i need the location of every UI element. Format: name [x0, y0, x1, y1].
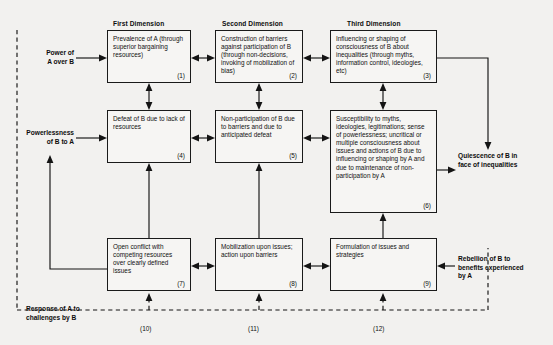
box-7[interactable]: Open conflict with competing resources o… — [107, 238, 191, 291]
box-4-text: Defeat of B due to lack of resources — [113, 115, 185, 130]
link-box1-box4-head-up — [146, 83, 153, 91]
feedback-number-11: (11) — [248, 325, 259, 332]
box-7-number: (7) — [177, 280, 185, 288]
box-3-number: (3) — [423, 72, 431, 80]
column-header-third: Third Dimension — [347, 20, 401, 27]
box-2-text: Construction of barriers against partici… — [221, 35, 294, 74]
feedback-riser-12-head — [380, 293, 387, 301]
label-rebellion-line2: benefits experienced — [458, 264, 524, 273]
label-quiescence: Quiescence of B in face of inequalities — [458, 152, 517, 169]
box-5-number: (5) — [289, 152, 297, 160]
box-9[interactable]: Formulation of issues and strategies (9) — [330, 238, 437, 291]
link-box5-box6-head-left — [303, 135, 311, 142]
box-8[interactable]: Mobilization upon issues; action upon ba… — [215, 238, 303, 291]
box-6-number: (6) — [423, 202, 431, 210]
label-power-of-a-line1: Power of — [14, 49, 74, 58]
box-1-text: Prevalence of A (through superior bargai… — [113, 35, 183, 58]
feedback-number-12: (12) — [373, 325, 384, 332]
label-power-of-a-line2: A over B — [14, 58, 74, 67]
box-2[interactable]: Construction of barriers against partici… — [215, 30, 303, 83]
link-box1-box2-head-right — [207, 55, 215, 62]
box-8-number: (8) — [289, 280, 297, 288]
link-box1-box4-head-down — [146, 102, 153, 110]
label-quiescence-line1: Quiescence of B in — [458, 152, 517, 161]
diagram-canvas: First Dimension Second Dimension Third D… — [0, 0, 553, 345]
link-box3-to-quiescence-path — [437, 58, 488, 142]
label-powerlessness-line1: Powerlessness — [4, 129, 74, 138]
link-box2-box5-head-up — [256, 83, 263, 91]
link-box1-box2-head-left — [191, 55, 199, 62]
box-1-number: (1) — [177, 72, 185, 80]
feedback-box7-to-powerlessness-path — [50, 163, 107, 269]
link-box3-to-quiescence-head — [485, 142, 492, 150]
box-5[interactable]: Non-participation of B due to barriers a… — [215, 110, 303, 163]
label-rebellion-line3: by A — [458, 272, 524, 281]
column-header-first: First Dimension — [113, 20, 164, 27]
link-box2-box3-head-right — [322, 55, 330, 62]
link-box3-box6-head-down — [380, 102, 387, 110]
box-3[interactable]: Influencing or shaping of consciousness … — [330, 30, 437, 83]
box-8-text: Mobilization upon issues; action upon ba… — [221, 243, 292, 258]
feedback-number-10: (10) — [140, 325, 151, 332]
link-box7-box8-head-left — [191, 263, 199, 270]
label-response-of-a: Response of A to challenges by B — [26, 305, 80, 322]
feedback-box7-to-powerlessness-head — [47, 155, 54, 163]
label-powerlessness-line2: of B to A — [4, 138, 74, 147]
link-box4-box7-head-up — [146, 163, 153, 171]
feedback-riser-10-head — [146, 293, 153, 301]
link-box3-box6-head-up — [380, 83, 387, 91]
column-header-second: Second Dimension — [222, 20, 283, 27]
link-box2-box3-head-left — [303, 55, 311, 62]
box-6-text: Susceptibility to myths, ideologies, leg… — [336, 115, 424, 179]
arrow-power-to-box1-head — [99, 55, 107, 62]
link-box6-box9-head-up — [380, 213, 387, 221]
label-powerlessness: Powerlessness of B to A — [4, 129, 74, 146]
link-box5-box6-head-right — [322, 135, 330, 142]
box-4[interactable]: Defeat of B due to lack of resources (4) — [107, 110, 191, 163]
link-box2-box5-head-down — [256, 102, 263, 110]
box-2-number: (2) — [289, 72, 297, 80]
link-rebellion-to-box9-head — [437, 263, 445, 270]
label-rebellion-line1: Rebellion of B to — [458, 255, 524, 264]
arrow-powerlessness-to-box4-head — [99, 135, 107, 142]
link-box6-to-quiescence-head — [448, 167, 456, 174]
link-box4-box5-head-left — [191, 135, 199, 142]
box-3-text: Influencing or shaping of consciousness … — [336, 35, 423, 74]
link-box5-box8-head-up — [256, 163, 263, 171]
label-response-of-a-line2: challenges by B — [26, 314, 80, 323]
link-box8-box9-head-right — [322, 263, 330, 270]
box-7-text: Open conflict with competing resources o… — [113, 243, 172, 274]
link-box7-box8-head-right — [207, 263, 215, 270]
label-rebellion: Rebellion of B to benefits experienced b… — [458, 255, 524, 281]
box-5-text: Non-participation of B due to barriers a… — [221, 115, 295, 138]
box-6[interactable]: Susceptibility to myths, ideologies, leg… — [330, 110, 437, 213]
box-4-number: (4) — [177, 152, 185, 160]
box-9-number: (9) — [423, 280, 431, 288]
link-box4-box5-head-right — [207, 135, 215, 142]
label-response-of-a-line1: Response of A to — [26, 305, 80, 314]
label-quiescence-line2: face of inequalities — [458, 161, 517, 170]
feedback-riser-11-head — [256, 293, 263, 301]
label-power-of-a: Power of A over B — [14, 49, 74, 66]
link-box8-box9-head-left — [303, 263, 311, 270]
box-9-text: Formulation of issues and strategies — [336, 243, 409, 258]
box-1[interactable]: Prevalence of A (through superior bargai… — [107, 30, 191, 83]
